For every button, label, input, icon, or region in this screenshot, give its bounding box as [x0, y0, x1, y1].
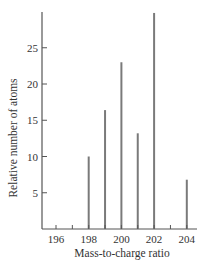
y-tick-label: 10	[27, 151, 39, 163]
y-axis-label: Relative number of atoms	[7, 78, 19, 198]
x-axis-label: Mass-to-charge ratio	[74, 247, 170, 260]
x-tick-label: 204	[179, 233, 196, 245]
mass-spectrum-chart: 510152025 196198200202204 Mass-to-charge…	[0, 0, 205, 271]
bars	[89, 13, 187, 229]
x-tick-label: 198	[80, 233, 97, 245]
y-tick-label: 15	[27, 114, 39, 126]
x-tick-label: 200	[113, 233, 130, 245]
y-tick-label: 20	[27, 78, 39, 90]
y-tick-label: 25	[27, 42, 39, 54]
axes	[42, 12, 197, 229]
y-axis-ticks: 510152025	[27, 42, 47, 199]
x-tick-label: 202	[146, 233, 163, 245]
y-tick-label: 5	[33, 187, 39, 199]
x-tick-label: 196	[48, 233, 65, 245]
x-axis-ticks: 196198200202204	[48, 225, 196, 245]
